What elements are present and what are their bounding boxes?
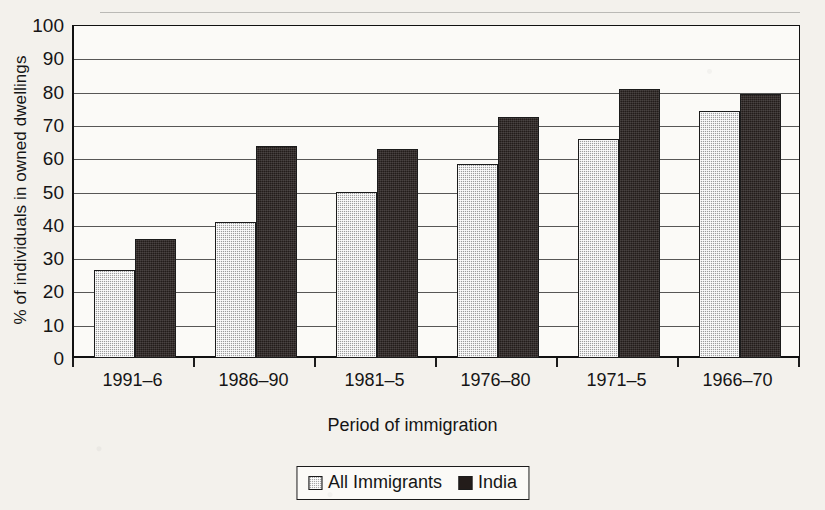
- bar-india[interactable]: [619, 89, 660, 358]
- legend-item-india: India: [458, 472, 517, 493]
- legend-label: All Immigrants: [328, 472, 442, 493]
- x-tick-label: 1986–90: [193, 370, 314, 391]
- x-tick: [677, 358, 679, 367]
- chart-legend: All Immigrants India: [296, 466, 529, 500]
- y-tick-label: 30: [18, 249, 64, 268]
- bar-india[interactable]: [498, 117, 539, 358]
- bar-group: [195, 26, 316, 358]
- y-tick-label: 60: [18, 149, 64, 168]
- bar-group: [437, 26, 558, 358]
- bar-groups: [74, 26, 800, 358]
- bar-all-immigrants[interactable]: [336, 192, 377, 358]
- x-axis-tick-labels: 1991–6 1986–90 1981–5 1976–80 1971–5 196…: [72, 370, 800, 396]
- bar-group: [679, 26, 800, 358]
- bar-all-immigrants[interactable]: [94, 270, 135, 358]
- x-tick: [72, 358, 74, 367]
- x-tick-label: 1971–5: [556, 370, 677, 391]
- bar-all-immigrants[interactable]: [457, 164, 498, 358]
- x-tick: [435, 358, 437, 367]
- y-tick-label: 40: [18, 216, 64, 235]
- legend-swatch-icon: [458, 476, 472, 490]
- y-tick-label: 90: [18, 49, 64, 68]
- y-tick-label: 0: [18, 349, 64, 368]
- y-tick-label: 50: [18, 183, 64, 202]
- x-tick: [193, 358, 195, 367]
- x-tick-label: 1981–5: [314, 370, 435, 391]
- y-axis-tick-labels: 100 90 80 70 60 50 40 30 20 10 0: [12, 25, 64, 358]
- bar-india[interactable]: [377, 149, 418, 358]
- y-tick-label: 80: [18, 83, 64, 102]
- bar-group: [558, 26, 679, 358]
- x-tick-label: 1966–70: [677, 370, 798, 391]
- x-axis-title: Period of immigration: [0, 415, 825, 436]
- x-tick: [556, 358, 558, 367]
- y-tick-label: 100: [18, 16, 64, 35]
- y-tick-label: 70: [18, 116, 64, 135]
- bar-india[interactable]: [256, 146, 297, 359]
- legend-item-all-immigrants: All Immigrants: [308, 472, 442, 493]
- bar-india[interactable]: [135, 239, 176, 359]
- bar-all-immigrants[interactable]: [578, 139, 619, 358]
- x-axis-tick-marks: [72, 358, 800, 367]
- legend-label: India: [478, 472, 517, 493]
- x-tick-label: 1976–80: [435, 370, 556, 391]
- y-tick-label: 20: [18, 282, 64, 301]
- bar-all-immigrants[interactable]: [215, 222, 256, 358]
- x-tick: [798, 358, 800, 367]
- bar-group: [74, 26, 195, 358]
- bar-chart: % of individuals in owned dwellings 100 …: [0, 0, 825, 510]
- bar-india[interactable]: [740, 94, 781, 358]
- x-tick: [314, 358, 316, 367]
- y-tick-label: 10: [18, 316, 64, 335]
- bar-group: [316, 26, 437, 358]
- legend-swatch-icon: [308, 476, 322, 490]
- x-tick-label: 1991–6: [72, 370, 193, 391]
- bar-all-immigrants[interactable]: [699, 111, 740, 358]
